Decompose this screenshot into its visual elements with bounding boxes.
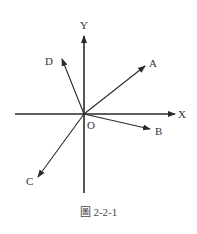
origin-label: O	[87, 119, 95, 131]
vector-a	[84, 66, 145, 114]
vector-b-label: B	[155, 125, 162, 137]
vector-d-label: D	[45, 55, 53, 67]
vector-c	[38, 114, 84, 177]
figure-caption: 圖 2-2-1	[0, 203, 197, 219]
vector-d	[62, 59, 84, 114]
vector-a-label: A	[149, 57, 157, 69]
vector-c-label: C	[26, 175, 33, 187]
vectors	[38, 59, 150, 177]
vector-diagram: XYABCDO	[0, 0, 197, 234]
labels: XYABCDO	[26, 19, 186, 187]
y-axis-label: Y	[80, 19, 88, 31]
x-axis-label: X	[178, 108, 186, 120]
